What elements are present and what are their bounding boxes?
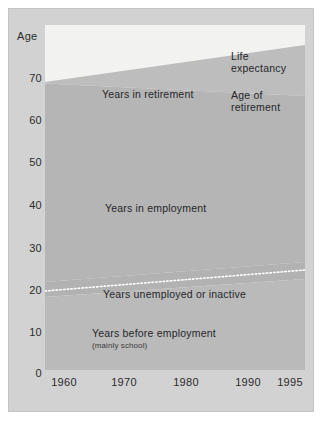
x-tick-1980: 1980 <box>173 376 199 388</box>
y-tick-60: 60 <box>12 115 42 126</box>
y-tick-10: 10 <box>12 327 42 338</box>
label-years-before-employment-main: Years before employment <box>92 327 216 339</box>
plot-area: Years in retirement Life expectancy Age … <box>45 25 305 370</box>
label-age-of-retirement: Age of retirement <box>231 89 305 113</box>
x-tick-1990: 1990 <box>235 376 261 388</box>
label-years-in-retirement: Years in retirement <box>102 88 194 100</box>
label-life-expectancy-line2: expectancy <box>231 62 286 74</box>
label-age-of-retirement-line2: retirement <box>231 101 280 113</box>
label-age-of-retirement-line1: Age of <box>231 89 263 101</box>
label-life-expectancy-line1: Life <box>231 50 249 62</box>
y-tick-50: 50 <box>12 157 42 168</box>
x-tick-1995: 1995 <box>277 376 303 388</box>
label-years-before-employment: Years before employment (mainly school) <box>92 327 216 352</box>
y-tick-70: 70 <box>12 73 42 84</box>
stacked-area-svg <box>45 25 305 370</box>
label-years-before-employment-sub: (mainly school) <box>92 340 216 352</box>
band-years-in-employment <box>45 84 305 283</box>
label-years-in-employment: Years in employment <box>105 202 206 214</box>
x-tick-1970: 1970 <box>111 376 137 388</box>
label-life-expectancy: Life expectancy <box>231 50 305 74</box>
label-years-unemployed: Years unemployed or inactive <box>103 288 246 300</box>
y-tick-40: 40 <box>12 200 42 211</box>
x-axis: 1960 1970 1980 1990 1995 <box>0 376 324 392</box>
x-tick-1960: 1960 <box>51 376 77 388</box>
chart-figure: Years in retirement Life expectancy Age … <box>0 0 324 424</box>
y-tick-30: 30 <box>12 243 42 254</box>
y-axis: 70 60 50 40 30 20 10 0 <box>8 0 42 424</box>
y-tick-20: 20 <box>12 285 42 296</box>
